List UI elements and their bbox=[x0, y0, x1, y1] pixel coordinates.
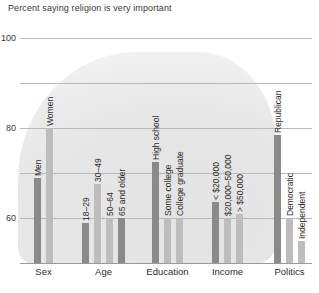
bar-label: 30–49 bbox=[93, 159, 103, 183]
bar: Democratic bbox=[286, 218, 293, 263]
bar-label: Some college bbox=[163, 164, 173, 216]
bar: $20,000–50,000 bbox=[224, 218, 231, 263]
bar: Republican bbox=[274, 135, 281, 263]
bar: Men bbox=[34, 178, 41, 264]
group-label-education: Education bbox=[146, 266, 188, 277]
bar: < $20,000 bbox=[212, 202, 219, 263]
bar-label: High school bbox=[151, 115, 161, 159]
group-label-politics: Politics bbox=[274, 266, 304, 277]
bar: 65 and older bbox=[118, 218, 125, 263]
bar-chart: Percent saying religion is very importan… bbox=[0, 0, 319, 293]
gridline-80: 80 bbox=[20, 83, 312, 84]
bar-label: Independent bbox=[297, 191, 307, 238]
x-axis-line: 0 bbox=[20, 263, 312, 264]
bar-label: Republican bbox=[273, 90, 283, 133]
plot-area: 020406080100MenWomen18–2930–4950–6465 an… bbox=[20, 38, 312, 263]
bar-label: 18–29 bbox=[81, 197, 91, 221]
group-label-income: Income bbox=[212, 266, 243, 277]
bar: Women bbox=[46, 128, 53, 263]
group-label-sex: Sex bbox=[35, 266, 51, 277]
bar: 30–49 bbox=[94, 184, 101, 263]
bar-label: College graduate bbox=[175, 151, 185, 216]
bar: High school bbox=[152, 162, 159, 263]
y-axis-tick-label: 100 bbox=[1, 33, 16, 43]
y-axis-tick-label: 60 bbox=[6, 213, 16, 223]
chart-title: Percent saying religion is very importan… bbox=[8, 3, 208, 14]
bar-label: 65 and older bbox=[117, 169, 127, 216]
bar-label: < $20,000 bbox=[211, 162, 221, 200]
bar-label: Women bbox=[45, 97, 55, 126]
y-axis-tick-label: 80 bbox=[6, 123, 16, 133]
gridline-100: 100 bbox=[20, 38, 312, 39]
bar: College graduate bbox=[176, 218, 183, 263]
bar: Some college bbox=[164, 218, 171, 263]
bar-label: Democratic bbox=[285, 173, 295, 216]
bar-label: 50–64 bbox=[105, 192, 115, 216]
bar: 50–64 bbox=[106, 218, 113, 263]
bar-label: Men bbox=[33, 159, 43, 176]
bar: 18–29 bbox=[82, 223, 89, 264]
bar: > $50,000 bbox=[236, 214, 243, 264]
bar-label: > $50,000 bbox=[235, 173, 245, 211]
gridline-60: 60 bbox=[20, 128, 312, 129]
bar-label: $20,000–50,000 bbox=[223, 155, 233, 216]
bar: Independent bbox=[298, 241, 305, 264]
group-label-age: Age bbox=[95, 266, 112, 277]
